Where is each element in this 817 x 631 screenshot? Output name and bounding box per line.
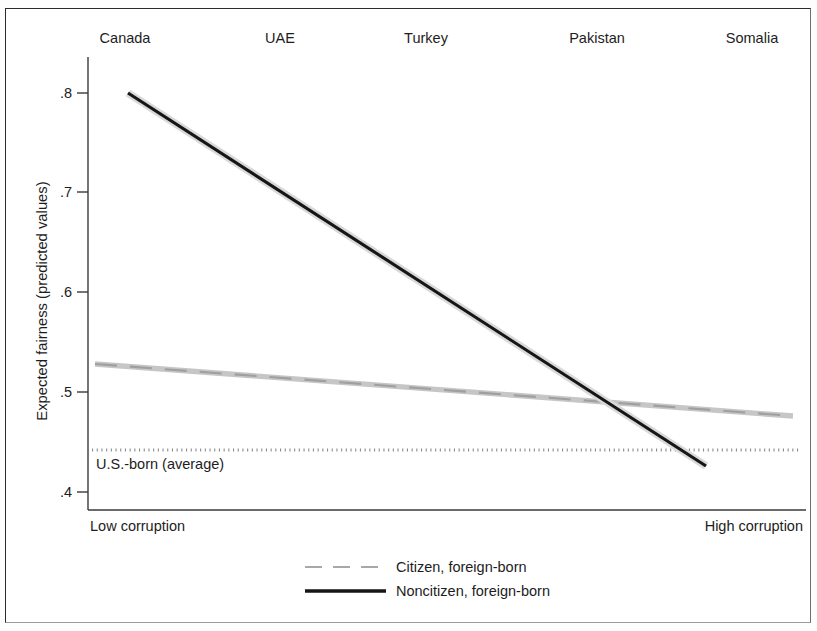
series-line-noncitizen-foreign-born <box>128 93 706 466</box>
figure-container: Canada UAE Turkey Pakistan Somalia .8 .7… <box>0 0 817 631</box>
legend-label-citizen-foreign-born: Citizen, foreign-born <box>396 559 527 575</box>
x-axis-low-corruption-label: Low corruption <box>90 518 185 534</box>
legend-label-noncitizen-foreign-born: Noncitizen, foreign-born <box>396 583 550 599</box>
series-halo-citizen-foreign-born <box>95 364 793 416</box>
x-axis-high-corruption-label: High corruption <box>705 518 803 534</box>
us-born-average-annotation: U.S.-born (average) <box>96 456 224 472</box>
plot-region: Canada UAE Turkey Pakistan Somalia .8 .7… <box>0 0 817 631</box>
chart-canvas <box>0 0 817 631</box>
